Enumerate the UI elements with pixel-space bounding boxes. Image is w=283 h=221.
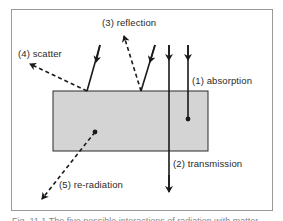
label-reflection: (3) reflection <box>102 17 156 28</box>
label-scatter: (4) scatter <box>18 48 62 59</box>
figure-caption: Fig. 11.1 The five possible interactions… <box>12 216 258 221</box>
reflection-ray <box>124 36 155 91</box>
material-block <box>53 91 208 151</box>
radiation-interaction-diagram <box>0 0 283 221</box>
label-absorption: (1) absorption <box>192 75 252 86</box>
label-transmission: (2) transmission <box>173 158 242 169</box>
label-reradiation: (5) re-radiation <box>59 179 123 190</box>
